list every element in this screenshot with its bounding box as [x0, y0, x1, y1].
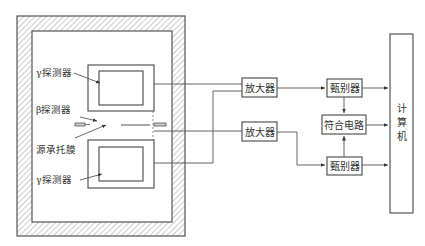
label-leaders	[74, 73, 106, 180]
computer-label-3: 机	[397, 130, 407, 142]
gamma-detector-bottom	[88, 140, 154, 188]
amplifier-2-label: 放大器	[245, 126, 275, 138]
discriminator-1-label: 甄别器	[330, 83, 360, 94]
label-gamma-detector-top: γ探测器	[36, 67, 72, 78]
computer-label-2: 算	[397, 116, 407, 128]
discriminator-1: 甄别器	[327, 79, 362, 97]
amplifier-2: 放大器	[242, 122, 277, 141]
coincidence-circuit-label: 符合电路	[324, 119, 364, 131]
discriminator-2-label: 甄别器	[330, 161, 360, 172]
amplifier-1: 放大器	[242, 78, 277, 97]
coincidence-circuit: 符合电路	[322, 115, 366, 134]
label-beta-detector: β探测器	[36, 104, 72, 115]
computer: 计 算 机	[390, 34, 413, 213]
beta-detector	[75, 111, 166, 140]
computer-label-1: 计	[397, 102, 407, 114]
label-gamma-detector-bottom: γ探测器	[36, 174, 72, 185]
label-source-film: 源承托膜	[36, 144, 76, 155]
diagram-canvas: γ探测器 β探测器 源承托膜 γ探测器 放大器 放大器 甄别器 符合电路 甄别器…	[0, 0, 425, 246]
discriminator-2: 甄别器	[327, 157, 362, 175]
amplifier-1-label: 放大器	[245, 82, 275, 94]
gamma-detector-top	[88, 65, 154, 111]
